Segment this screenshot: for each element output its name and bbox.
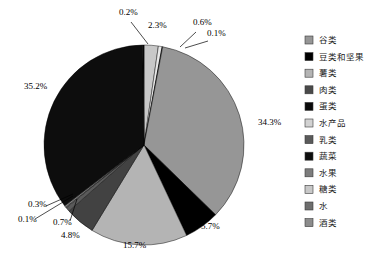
legend-item-label[interactable]: 糖类 bbox=[319, 184, 337, 194]
legend-swatch bbox=[305, 69, 313, 77]
legend-item-label[interactable]: 水产品 bbox=[319, 118, 346, 128]
chart-legend[interactable]: 谷类豆类和坚果薯类肉类蛋类水产品乳类蔬菜水果糖类水酒类 bbox=[305, 35, 364, 228]
leader-line bbox=[180, 32, 196, 47]
slice-percentage-label: 0.3% bbox=[28, 199, 47, 209]
slice-percentage-label: 0.1% bbox=[18, 214, 37, 224]
legend-item-label[interactable]: 谷类 bbox=[319, 35, 337, 45]
slice-percentage-label: 0.7% bbox=[53, 217, 72, 227]
legend-swatch bbox=[305, 86, 313, 94]
leader-line bbox=[131, 22, 148, 44]
slice-percentage-label: 2.3% bbox=[148, 20, 167, 30]
slice-percentage-label: 5.7% bbox=[201, 221, 220, 231]
legend-swatch bbox=[305, 185, 313, 193]
legend-swatch bbox=[305, 136, 313, 144]
legend-swatch bbox=[305, 202, 313, 210]
leader-line bbox=[185, 41, 208, 48]
slice-percentage-label: 35.2% bbox=[24, 81, 48, 91]
slice-percentage-label: 15.7% bbox=[123, 240, 147, 250]
legend-swatch bbox=[305, 219, 313, 227]
slice-percentage-label: 34.3% bbox=[258, 117, 282, 127]
pie-slices-group bbox=[44, 45, 244, 245]
legend-item-label[interactable]: 乳类 bbox=[319, 135, 337, 145]
slice-percentage-label: 0.1% bbox=[207, 28, 226, 38]
slice-percentage-label: 0.6% bbox=[193, 17, 212, 27]
pie-chart: 0.2%2.3%0.6%0.1%34.3%5.7%15.7%4.8%0.7%0.… bbox=[0, 0, 388, 267]
chart-page: 0.2%2.3%0.6%0.1%34.3%5.7%15.7%4.8%0.7%0.… bbox=[0, 0, 388, 267]
legend-item-label[interactable]: 肉类 bbox=[319, 85, 337, 95]
legend-item-label[interactable]: 酒类 bbox=[319, 218, 337, 228]
legend-swatch bbox=[305, 102, 313, 110]
slice-percentage-label: 0.2% bbox=[119, 7, 138, 17]
legend-swatch bbox=[305, 119, 313, 127]
legend-item-label[interactable]: 蔬菜 bbox=[319, 151, 337, 161]
legend-swatch bbox=[305, 36, 313, 44]
legend-swatch bbox=[305, 169, 313, 177]
slice-percentage-label: 4.8% bbox=[61, 230, 80, 240]
legend-swatch bbox=[305, 152, 313, 160]
legend-item-label[interactable]: 水 bbox=[319, 201, 328, 211]
legend-item-label[interactable]: 豆类和坚果 bbox=[319, 52, 364, 62]
legend-item-label[interactable]: 薯类 bbox=[319, 68, 337, 78]
legend-swatch bbox=[305, 53, 313, 61]
legend-item-label[interactable]: 水果 bbox=[319, 168, 337, 178]
legend-item-label[interactable]: 蛋类 bbox=[319, 101, 337, 111]
